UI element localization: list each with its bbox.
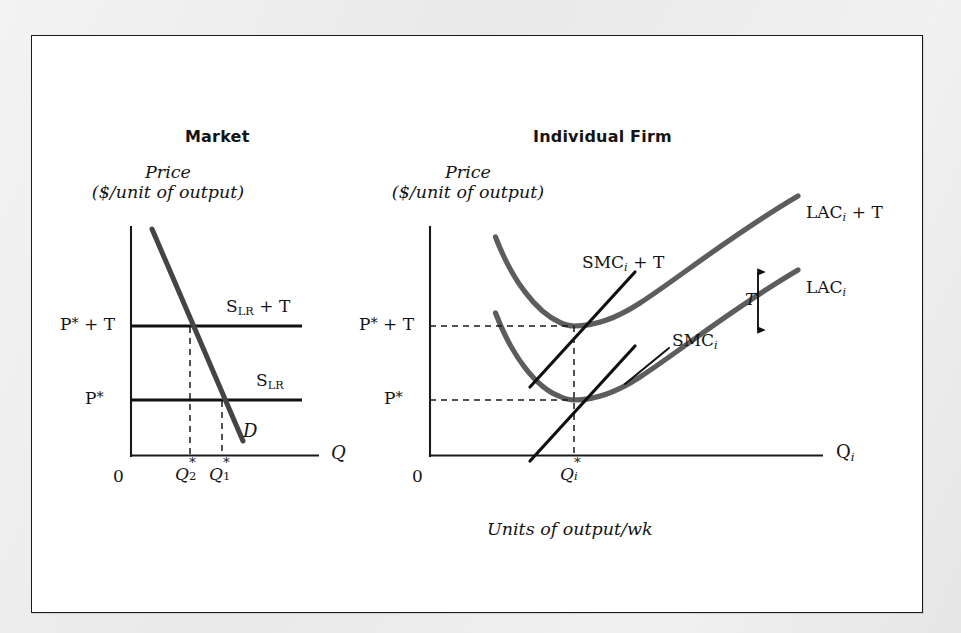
lac-label-main: LAC	[806, 277, 843, 297]
lac-label-sub: i	[843, 286, 847, 299]
market-price-plus-tax-label-star: *	[71, 315, 78, 331]
smc-label: SMCi	[672, 330, 718, 352]
firm-panel-title: Individual Firm	[533, 127, 672, 146]
smc-plus-tax-label-main: SMC	[582, 252, 624, 272]
firm-price-label-p: P	[384, 388, 395, 408]
figure-frame	[31, 35, 923, 613]
market-price-label-star: *	[96, 389, 103, 405]
tax-gap-label: T	[745, 289, 756, 309]
firm-x-axis-label: Qi	[836, 441, 855, 464]
supply-lr-label-sub: LR	[268, 379, 284, 392]
market-y-axis-title: Price ($/unit of output)	[68, 163, 268, 202]
figure-root: Market Price ($/unit of output) Q 0 P* +…	[0, 0, 961, 633]
firm-price-label-star: *	[395, 389, 402, 405]
firm-qstar-label-star: *	[574, 454, 581, 470]
firm-x-axis-label-sub: i	[851, 450, 855, 464]
firm-price-plus-tax-label: P* + T	[359, 314, 414, 334]
firm-price-label: P*	[384, 388, 403, 408]
lac-plus-tax-label-plus: + T	[846, 202, 882, 222]
firm-qstar-label: Q * * i	[560, 464, 581, 484]
supply-lr-label-s: S	[256, 370, 268, 390]
firm-origin-label: 0	[412, 466, 423, 486]
supply-lr-plus-tax-label-sub: LR	[238, 305, 254, 318]
market-price-plus-tax-label: P* + T	[60, 314, 115, 334]
lac-plus-tax-label-main: LAC	[806, 202, 843, 222]
smc-plus-tax-label: SMCi + T	[582, 252, 664, 274]
market-q2-label-q: Q	[175, 464, 189, 484]
market-q1-label: Q * * 1	[209, 464, 230, 484]
market-q1-label-q: Q	[209, 464, 223, 484]
firm-qstar-label-q: Q	[560, 464, 574, 484]
supply-lr-label: SLR	[256, 370, 284, 392]
smc-label-sub: i	[714, 339, 718, 352]
market-origin-label: 0	[113, 466, 124, 486]
market-q2-label-sub: 2	[189, 469, 196, 483]
market-price-label: P*	[85, 388, 104, 408]
market-q1-label-sub: 1	[223, 469, 230, 483]
smc-plus-tax-label-plus: + T	[628, 252, 664, 272]
lac-label: LACi	[806, 277, 846, 299]
firm-x-axis-label-q: Q	[836, 441, 851, 462]
demand-label: D	[243, 420, 257, 441]
supply-lr-plus-tax-label-plus: + T	[254, 296, 290, 316]
market-panel-title: Market	[185, 127, 250, 146]
market-x-axis-label: Q	[331, 442, 346, 463]
market-price-plus-tax-label-p: P	[60, 314, 71, 334]
firm-y-axis-title: Price ($/unit of output)	[368, 163, 568, 202]
market-y-axis-title-line2: ($/unit of output)	[68, 183, 268, 203]
market-q2-label: Q * * 2	[175, 464, 196, 484]
firm-price-plus-tax-label-star: *	[370, 315, 377, 331]
market-q1-label-star: *	[223, 454, 230, 470]
supply-lr-plus-tax-label-s: S	[226, 296, 238, 316]
firm-x-axis-caption: Units of output/wk	[487, 520, 653, 540]
market-y-axis-title-line1: Price	[68, 163, 268, 183]
firm-y-axis-title-line1: Price	[368, 163, 568, 183]
supply-lr-plus-tax-label: SLR + T	[226, 296, 290, 318]
firm-y-axis-title-line2: ($/unit of output)	[368, 183, 568, 203]
market-q2-label-star: *	[189, 454, 196, 470]
lac-plus-tax-label: LACi + T	[806, 202, 883, 224]
firm-price-plus-tax-label-p: P	[359, 314, 370, 334]
firm-qstar-label-sub: i	[574, 469, 578, 483]
market-price-label-p: P	[85, 388, 96, 408]
smc-label-main: SMC	[672, 330, 714, 350]
market-price-plus-tax-label-plus: + T	[79, 314, 115, 334]
firm-price-plus-tax-label-plus: + T	[378, 314, 414, 334]
